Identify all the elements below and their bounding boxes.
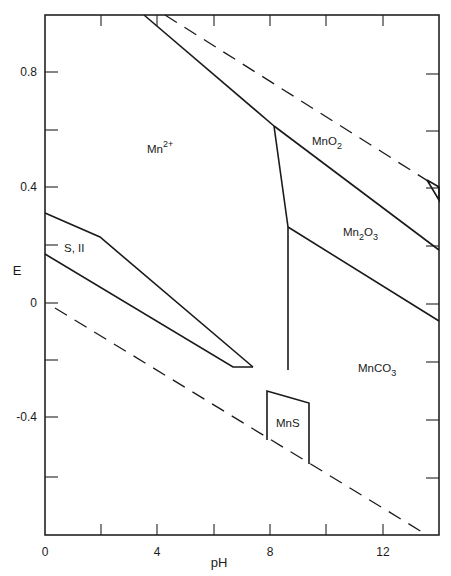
x-tick-label-4: 4: [154, 545, 161, 559]
x-tick-label-8: 8: [267, 545, 274, 559]
region-label-sulfur-ii: S, II: [64, 242, 84, 254]
x-tick-label-12: 12: [376, 545, 390, 559]
region-label-mn2plus: Mn2+: [147, 139, 173, 155]
y-tick-label-0.8: 0.8: [20, 65, 37, 79]
lower-water-limit-dashed: [55, 308, 427, 535]
phase-boundaries: [45, 15, 439, 464]
x-tick-label-0: 0: [42, 545, 49, 559]
y-axis-label: E: [13, 263, 22, 278]
plot-frame: [45, 15, 439, 535]
s2-lower-boundary: [45, 254, 253, 367]
y-axis-ticks-left: [45, 72, 58, 477]
region-label-mno2: MnO2: [312, 135, 342, 151]
upper-water-limit-dashed: [165, 15, 439, 188]
eh-ph-diagram: 0 4 8 12 0.8 0.4 0 -0.4 pH E Mn2+ MnO2 M…: [0, 0, 451, 576]
mn2-mno2-boundary: [144, 15, 274, 126]
region-label-mnco3: MnCO3: [358, 362, 396, 378]
y-axis-ticks-right: [426, 74, 439, 478]
y-tick-label-0: 0: [30, 296, 37, 310]
x-axis-ticks-top: [101, 15, 383, 26]
s2-upper-boundary: [45, 213, 253, 367]
region-label-mns: MnS: [276, 417, 300, 429]
region-label-mn2o3: Mn2O3: [343, 226, 378, 242]
mn2-mn2o3-boundary: [274, 126, 288, 227]
y-tick-label-neg0.4: -0.4: [16, 410, 37, 424]
y-tick-label-0.4: 0.4: [20, 180, 37, 194]
x-axis-ticks-bottom: [101, 524, 383, 535]
x-axis-label: pH: [211, 555, 228, 570]
upper-right-triangle: [427, 180, 439, 200]
